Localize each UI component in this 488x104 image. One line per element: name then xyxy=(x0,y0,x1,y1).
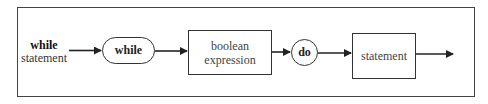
connector-arrows xyxy=(0,0,488,104)
